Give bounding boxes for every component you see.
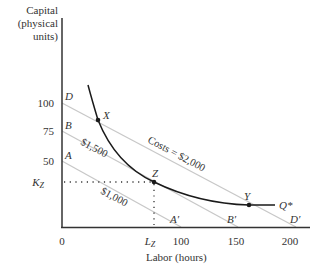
point-z-marker xyxy=(152,180,157,185)
line-b-end-label: B′ xyxy=(227,213,237,225)
y-tick-75: 75 xyxy=(43,125,55,137)
lz-subscript: Z xyxy=(151,240,156,249)
y-axis-label-line-2: (physical xyxy=(18,17,58,30)
x-tick-100: 100 xyxy=(173,235,190,247)
y-tick-kz: KZ xyxy=(31,176,44,190)
isoquant-label: Q* xyxy=(279,199,293,211)
cost-label-1500: $1,500 xyxy=(79,136,110,159)
point-y-label: Y xyxy=(244,190,252,202)
point-x-label: X xyxy=(102,109,111,121)
kz-subscript: Z xyxy=(40,181,45,190)
point-y-marker xyxy=(247,203,252,208)
line-a-start-label: A xyxy=(64,149,72,161)
x-tick-0: 0 xyxy=(59,235,65,247)
point-x-marker xyxy=(96,118,101,123)
isoquant-diagram: Capital (physical units) X Z Y Q* D B A … xyxy=(0,0,334,272)
y-tick-50: 50 xyxy=(43,155,55,167)
cost-label-1000: $1,000 xyxy=(99,185,130,208)
line-b-start-label: B xyxy=(65,119,72,131)
line-d-end-label: D′ xyxy=(289,213,301,225)
lz-main: L xyxy=(144,235,151,247)
x-tick-150: 150 xyxy=(228,235,245,247)
x-tick-200: 200 xyxy=(282,235,299,247)
line-a-end-label: A′ xyxy=(169,213,180,225)
line-d-start-label: D xyxy=(64,90,73,102)
x-axis-label: Labor (hours) xyxy=(146,251,207,264)
isoquant-curve xyxy=(88,85,275,205)
y-tick-100: 100 xyxy=(38,97,55,109)
x-tick-lz: LZ xyxy=(144,235,156,249)
y-axis-label-line-3: units) xyxy=(33,30,58,43)
y-axis-label-line-1: Capital xyxy=(26,4,58,16)
point-z-label: Z xyxy=(152,167,159,179)
